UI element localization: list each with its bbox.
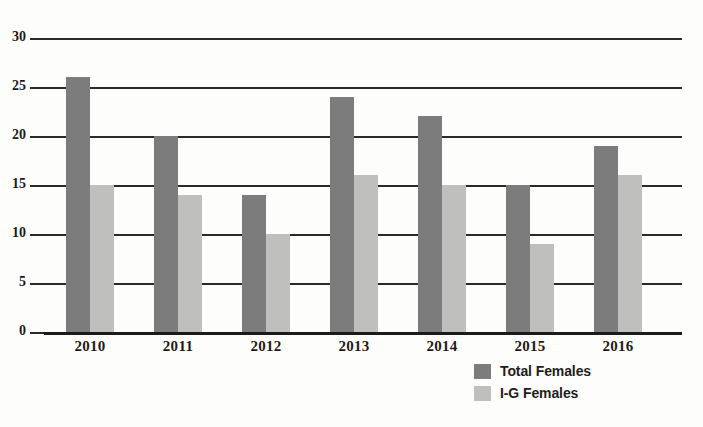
x-tick-label-2013: 2013: [309, 338, 399, 355]
bar-group-2016: [594, 38, 642, 332]
bar-group-2012: [242, 38, 290, 332]
y-tick-mark-15: [30, 185, 44, 187]
y-tick-mark-30: [30, 38, 44, 40]
x-tick-label-2011: 2011: [133, 338, 223, 355]
bar-2015-ig-females: [530, 244, 554, 332]
y-tick-label-25: 25: [0, 79, 26, 93]
legend-swatch-icon: [474, 364, 491, 379]
bar-2012-ig-females: [266, 234, 290, 332]
bar-2013-ig-females: [354, 175, 378, 332]
legend-swatch-icon: [474, 386, 491, 401]
y-tick-label-30: 30: [0, 30, 26, 44]
y-tick-mark-5: [30, 283, 44, 285]
gridline-0: [44, 332, 682, 335]
bar-group-2010: [66, 38, 114, 332]
y-tick-mark-20: [30, 136, 44, 138]
x-tick-label-2010: 2010: [45, 338, 135, 355]
bar-group-2014: [418, 38, 466, 332]
bar-2015-total-females: [506, 185, 530, 332]
y-tick-mark-10: [30, 234, 44, 236]
legend-item-label: Total Females: [500, 363, 591, 379]
bar-2016-total-females: [594, 146, 618, 332]
bar-2014-total-females: [418, 116, 442, 332]
bar-2014-ig-females: [442, 185, 466, 332]
bar-2011-ig-females: [178, 195, 202, 332]
plot-area: [44, 38, 682, 332]
x-tick-label-2014: 2014: [397, 338, 487, 355]
bar-2010-total-females: [66, 77, 90, 332]
bar-group-2011: [154, 38, 202, 332]
x-tick-label-2012: 2012: [221, 338, 311, 355]
x-tick-label-2016: 2016: [573, 338, 663, 355]
bar-group-2013: [330, 38, 378, 332]
y-tick-label-5: 5: [0, 275, 26, 289]
y-tick-label-15: 15: [0, 177, 26, 191]
bar-group-2015: [506, 38, 554, 332]
y-tick-mark-25: [30, 87, 44, 89]
x-tick-label-2015: 2015: [485, 338, 575, 355]
bar-2011-total-females: [154, 136, 178, 332]
bar-2013-total-females: [330, 97, 354, 332]
legend-item-label: I-G Females: [500, 385, 578, 401]
y-tick-label-20: 20: [0, 128, 26, 142]
y-tick-label-10: 10: [0, 226, 26, 240]
bar-2016-ig-females: [618, 175, 642, 332]
bar-2010-ig-females: [90, 185, 114, 332]
y-tick-label-0: 0: [0, 324, 26, 338]
y-tick-mark-0: [30, 332, 44, 334]
bar-2012-total-females: [242, 195, 266, 332]
bar-chart: 051015202530 201020112012201320142015201…: [0, 0, 703, 427]
legend-item-total-females[interactable]: Total Females: [474, 360, 591, 382]
chart-legend: Total FemalesI-G Females: [474, 360, 591, 404]
legend-item-ig-females[interactable]: I-G Females: [474, 382, 591, 404]
